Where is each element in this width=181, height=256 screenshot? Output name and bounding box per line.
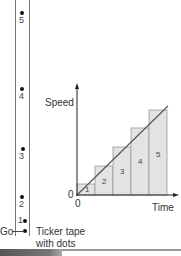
bar-label-2: 2 xyxy=(102,178,106,186)
x-axis-arrow-icon xyxy=(173,193,179,197)
bar-label-3: 3 xyxy=(120,168,124,176)
bottom-strip-line xyxy=(62,249,181,251)
bar-label-4: 4 xyxy=(138,158,142,166)
bottom-strip-dark xyxy=(0,249,62,256)
speed-time-graph xyxy=(0,0,181,256)
y-axis-label: Speed xyxy=(45,97,74,108)
origin-x-label: 0 xyxy=(75,198,81,209)
x-axis-label: Time xyxy=(152,202,174,213)
bar-label-1: 1 xyxy=(85,186,89,194)
bar-label-5: 5 xyxy=(156,151,160,159)
origin-y-label: 0 xyxy=(68,189,74,200)
y-axis-arrow-icon xyxy=(75,83,79,89)
